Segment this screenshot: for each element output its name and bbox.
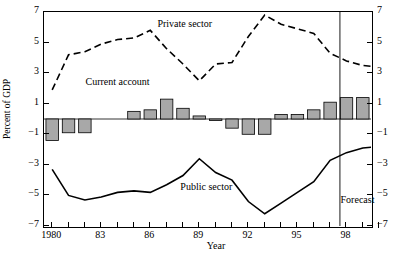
x-tick-label-1983: 83	[80, 229, 120, 240]
x-tick-mark-1991	[231, 222, 232, 228]
bar-current-account-1993	[258, 119, 270, 134]
x-tick-mark-1996	[313, 222, 314, 228]
y-tick-mark-r-1	[367, 103, 373, 104]
x-tick-mark-1987	[166, 222, 167, 228]
x-tick-mark-2000	[378, 222, 379, 228]
x-tick-label-1989: 89	[178, 229, 218, 240]
x-tick-label-1986: 86	[129, 229, 169, 240]
x-tick-mark-1981	[68, 222, 69, 228]
current-account-label: Current account	[86, 76, 150, 87]
bar-current-account-1998	[340, 98, 352, 119]
y-axis-label-left: Percent of GDP	[0, 0, 13, 217]
bar-current-account-1985	[128, 111, 140, 119]
x-tick-label-1995: 95	[276, 229, 316, 240]
y-tick-right-3: 3	[377, 65, 397, 76]
bar-current-account-1997	[324, 102, 336, 119]
bar-current-account-1987	[160, 99, 172, 119]
y-tick-right--7: −7	[377, 218, 397, 229]
x-axis-title: Year	[186, 240, 246, 251]
y-tick-mark-r--1	[367, 133, 373, 134]
x-tick-mark-1980	[51, 222, 52, 228]
x-tick-mark-1989	[198, 222, 199, 228]
y-tick-left-7: 7	[19, 4, 39, 15]
public-sector-label: Public sector	[180, 181, 232, 192]
x-tick-label-1980: 1980	[31, 229, 71, 240]
y-tick-mark-r--3	[367, 164, 373, 165]
x-tick-label-1998: 98	[325, 229, 365, 240]
y-tick-left--1: −1	[19, 126, 39, 137]
y-tick-left-3: 3	[19, 65, 39, 76]
x-tick-label-1992: 92	[227, 229, 267, 240]
x-tick-mark-1983	[100, 222, 101, 228]
bar-current-account-1995	[291, 114, 303, 119]
chart-container: Percent of GDP Percent of GDP 7531−1−3−5…	[0, 0, 416, 257]
x-tick-mark-1982	[84, 222, 85, 228]
y-tick-mark-l--7	[43, 225, 49, 226]
bar-current-account-1992	[242, 119, 254, 134]
y-tick-right--1: −1	[377, 126, 397, 137]
y-tick-left--7: −7	[19, 218, 39, 229]
y-tick-left--3: −3	[19, 157, 39, 168]
y-tick-mark-l-5	[43, 42, 49, 43]
bar-current-account-1991	[226, 119, 238, 128]
plot-area	[43, 11, 373, 228]
line-public-sector	[52, 147, 371, 214]
y-tick-right-1: 1	[377, 96, 397, 107]
bar-current-account-1994	[275, 114, 287, 119]
x-tick-mark-1994	[280, 222, 281, 228]
x-tick-mark-1986	[149, 222, 150, 228]
bar-current-account-1980	[46, 119, 58, 140]
y-tick-right--5: −5	[377, 187, 397, 198]
y-tick-mark-l-7	[43, 11, 49, 12]
y-tick-right-5: 5	[377, 35, 397, 46]
x-tick-mark-1992	[247, 222, 248, 228]
y-tick-mark-l--5	[43, 194, 49, 195]
bar-current-account-1981	[62, 119, 74, 133]
y-tick-right--3: −3	[377, 157, 397, 168]
x-tick-mark-1985	[133, 222, 134, 228]
y-tick-mark-r--7	[367, 225, 373, 226]
bar-current-account-1999	[357, 98, 369, 119]
bar-current-account-1990	[209, 119, 221, 121]
y-tick-mark-l-1	[43, 103, 49, 104]
bar-current-account-1988	[177, 108, 189, 119]
bar-current-account-1989	[193, 116, 205, 119]
x-tick-mark-1999	[362, 222, 363, 228]
bar-current-account-1996	[308, 110, 320, 119]
x-tick-mark-1993	[264, 222, 265, 228]
x-tick-mark-1998	[345, 222, 346, 228]
y-tick-mark-l--1	[43, 133, 49, 134]
y-axis-label-right: Percent of GDP	[0, 217, 13, 257]
y-tick-left--5: −5	[19, 187, 39, 198]
y-tick-left-5: 5	[19, 35, 39, 46]
y-tick-mark-l--3	[43, 164, 49, 165]
x-tick-mark-1990	[215, 222, 216, 228]
bar-current-account-1982	[79, 119, 91, 133]
y-tick-right-7: 7	[377, 4, 397, 15]
y-tick-mark-r-5	[367, 42, 373, 43]
y-tick-mark-r-7	[367, 11, 373, 12]
chart-svg	[44, 12, 371, 226]
private-sector-label: Private sector	[157, 18, 212, 29]
y-tick-mark-r--5	[367, 194, 373, 195]
x-tick-mark-1988	[182, 222, 183, 228]
y-tick-mark-r-3	[367, 72, 373, 73]
x-tick-mark-1984	[117, 222, 118, 228]
bar-current-account-1986	[144, 110, 156, 119]
y-tick-left-1: 1	[19, 96, 39, 107]
x-tick-mark-1995	[296, 222, 297, 228]
x-tick-mark-1997	[329, 222, 330, 228]
y-tick-mark-l-3	[43, 72, 49, 73]
